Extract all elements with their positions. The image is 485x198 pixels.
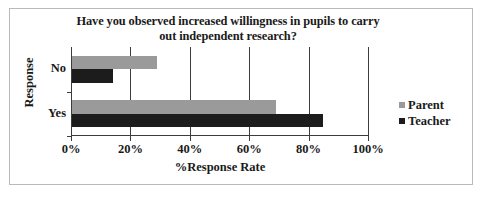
legend-item-teacher: Teacher [399,113,471,129]
x-axis-line [71,135,369,136]
x-tick-label-60: 60% [221,142,277,157]
legend-label-parent: Parent [408,98,444,113]
gridline-100 [368,47,369,136]
x-tick-label-80: 80% [281,142,337,157]
y-category-label-yes: Yes [28,106,66,121]
chart-frame: Have you observed increased willingness … [9,8,473,185]
chart-legend: Parent Teacher [399,97,471,129]
chart-title: Have you observed increased willingness … [48,14,408,44]
x-tick-label-0: 0% [43,142,99,157]
legend-item-parent: Parent [399,97,471,113]
plot-area [71,47,368,136]
y-tick-0 [67,92,72,93]
bar-parent-no [71,56,157,70]
x-tick-60 [249,136,250,141]
y-category-label-no: No [28,61,66,76]
x-tick-label-100: 100% [340,142,396,157]
x-tick-20 [130,136,131,141]
legend-swatch-parent-icon [399,102,405,108]
legend-swatch-teacher-icon [399,118,405,124]
x-tick-label-40: 40% [162,142,218,157]
legend-label-teacher: Teacher [408,114,451,129]
x-axis-title: %Response Rate [71,160,369,175]
x-tick-80 [309,136,310,141]
chart-title-line-1: Have you observed increased willingness … [48,14,408,29]
y-tick-1 [67,136,72,137]
x-tick-label-20: 20% [102,142,158,157]
bar-teacher-yes [71,114,323,128]
bar-teacher-no [71,69,113,83]
x-tick-100 [368,136,369,141]
x-tick-40 [190,136,191,141]
chart-title-line-2: out independent research? [48,29,408,44]
bar-parent-yes [71,100,276,114]
